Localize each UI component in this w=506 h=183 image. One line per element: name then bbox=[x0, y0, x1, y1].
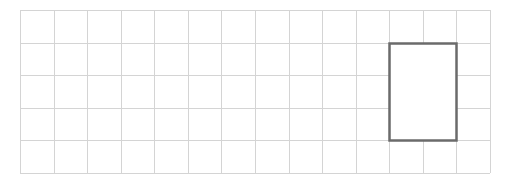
highlighted-rectangle bbox=[390, 44, 457, 141]
grid-diagram bbox=[0, 0, 506, 183]
